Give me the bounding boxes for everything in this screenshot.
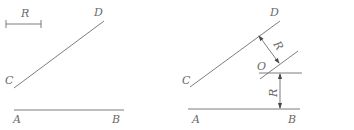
- line-cd: [190, 21, 280, 87]
- dimension-r-from-ab: R: [267, 74, 280, 108]
- line-cd: [14, 21, 104, 88]
- label-c: C: [5, 74, 14, 87]
- label-d: D: [93, 6, 103, 19]
- construction-diagram: R C D A B C D O A B R R: [0, 0, 354, 130]
- label-d: D: [269, 6, 279, 19]
- right-figure: C D O A B R R: [182, 6, 302, 126]
- label-a: A: [12, 113, 21, 126]
- label-a: A: [191, 113, 200, 126]
- label-c: C: [182, 74, 191, 87]
- label-b: B: [287, 113, 296, 126]
- dimension-label-r: R: [270, 38, 286, 53]
- dimension-label-r: R: [267, 89, 280, 98]
- radius-scale-bar: R: [6, 7, 41, 28]
- dimension-r-from-cd: R: [259, 36, 286, 63]
- scale-bar-label: R: [20, 7, 29, 20]
- label-o: O: [257, 60, 266, 73]
- label-b: B: [111, 113, 120, 126]
- left-figure: R C D A B: [5, 6, 124, 126]
